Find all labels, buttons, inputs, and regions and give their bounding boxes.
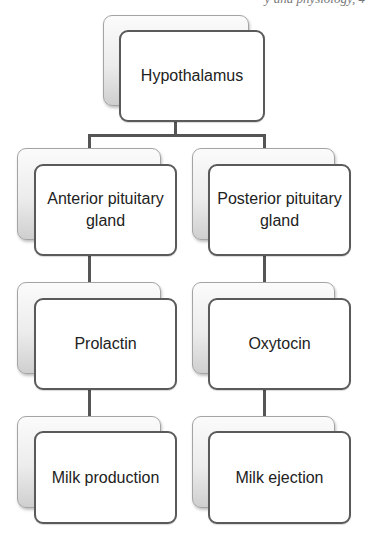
hypothalamus-node: Hypothalamus — [119, 30, 265, 122]
anterior-pituitary-node: Anterior pituitary gland — [34, 164, 177, 256]
hypothalamus-label: Hypothalamus — [137, 65, 247, 87]
prolactin-label: Prolactin — [70, 333, 140, 355]
milk-ejection-label: Milk ejection — [231, 467, 327, 489]
posterior-pituitary-node: Posterior pituitary gland — [208, 164, 351, 256]
oxytocin-label: Oxytocin — [244, 333, 314, 355]
page-header-fragment: y and physiology, 4 — [265, 0, 365, 7]
prolactin-node: Prolactin — [34, 298, 177, 390]
oxytocin-node: Oxytocin — [208, 298, 351, 390]
milk-production-node: Milk production — [34, 431, 177, 524]
milk-production-label: Milk production — [48, 467, 164, 489]
anterior-pituitary-label: Anterior pituitary gland — [36, 188, 175, 232]
posterior-pituitary-label: Posterior pituitary gland — [210, 188, 349, 232]
connector-horizontal-bar — [88, 134, 266, 137]
milk-ejection-node: Milk ejection — [208, 431, 351, 524]
